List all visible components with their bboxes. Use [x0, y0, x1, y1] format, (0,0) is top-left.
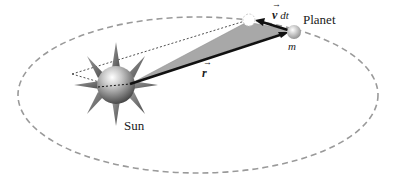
orbit-ellipse [18, 17, 378, 173]
sun-label: Sun [124, 118, 144, 134]
previous-planet-position [243, 14, 255, 26]
mass-label: m [288, 40, 296, 52]
swept-area [130, 22, 290, 84]
velocity-dt-label: → v dt [272, 8, 289, 23]
kepler-diagram: Sun Planet m → r → v dt [0, 0, 393, 184]
planet-icon [287, 25, 301, 39]
velocity-symbol: v [272, 8, 277, 22]
sun-icon [97, 66, 135, 104]
radius-vector-label: → r [202, 66, 207, 81]
dt-symbol: dt [280, 9, 289, 21]
planet-label: Planet [303, 12, 336, 28]
radius-symbol: r [202, 66, 207, 80]
